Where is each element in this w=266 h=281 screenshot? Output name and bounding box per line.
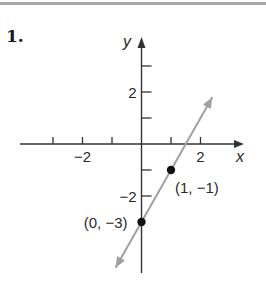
point-label: (0, −3): [84, 214, 128, 231]
x-tick-label: 2: [196, 148, 204, 165]
x-tick-label: −2: [74, 148, 91, 165]
y-tick-label: −2: [119, 188, 136, 205]
y-tick-label: 2: [128, 84, 136, 101]
coordinate-plot: −222−2xy(0, −3)(1, −1): [0, 0, 266, 281]
point-label: (1, −1): [175, 179, 219, 196]
x-axis-label: x: [235, 148, 245, 165]
data-point: [167, 166, 175, 174]
x-axis-arrow-icon: [234, 140, 244, 148]
y-axis-label: y: [122, 33, 132, 50]
data-point: [137, 218, 145, 226]
y-axis-arrow-icon: [138, 37, 146, 48]
